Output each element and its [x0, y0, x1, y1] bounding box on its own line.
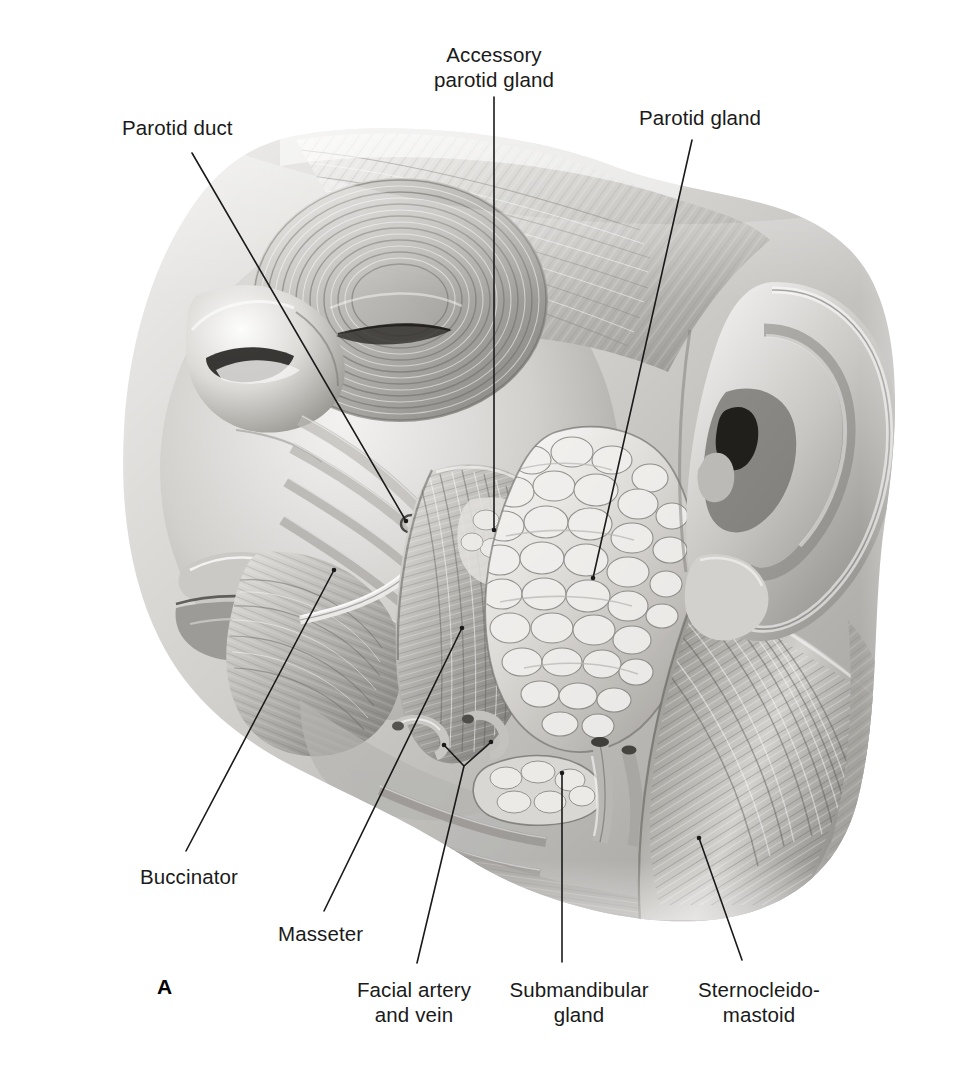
label-masseter: Masseter	[278, 921, 363, 946]
label-submandibular-gland: Submandibular gland	[479, 977, 679, 1027]
label-facial-artery-and-vein: Facial artery and vein	[324, 977, 504, 1027]
label-parotid-gland: Parotid gland	[600, 105, 800, 130]
head-mass	[100, 110, 920, 940]
label-buccinator: Buccinator	[140, 864, 238, 889]
anatomical-figure: Parotid duct Accessory parotid gland Par…	[0, 0, 964, 1084]
figure-letter: A	[157, 975, 172, 999]
head-anatomy-illustration	[0, 0, 964, 1084]
label-sternocleidomastoid: Sternocleido- mastoid	[669, 977, 849, 1027]
label-parotid-duct: Parotid duct	[122, 115, 233, 140]
label-accessory-parotid-gland: Accessory parotid gland	[394, 42, 594, 92]
